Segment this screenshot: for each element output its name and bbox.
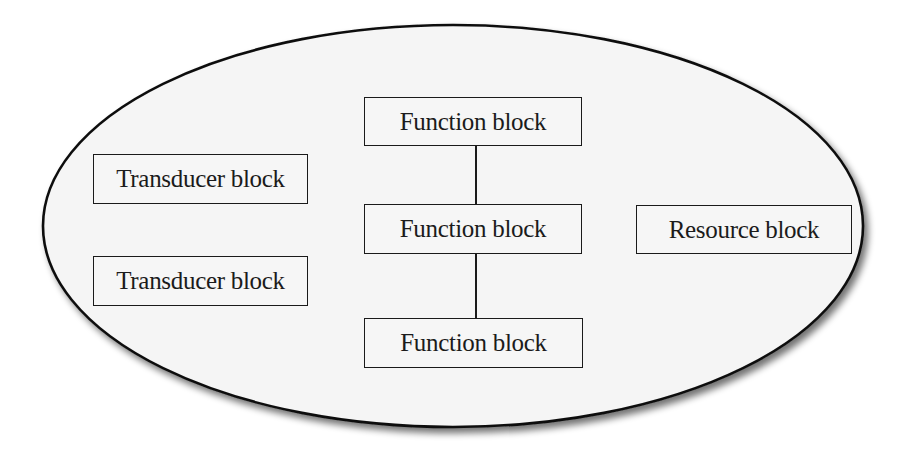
function-block-middle: Function block (364, 204, 582, 254)
resource-block: Resource block (636, 205, 852, 254)
device-block-diagram: Function block Function block Function b… (0, 0, 911, 453)
connector-line-top (475, 145, 477, 205)
connector-line-bottom (475, 253, 477, 318)
function-block-top: Function block (364, 97, 582, 146)
transducer-block-bottom-label: Transducer block (116, 267, 285, 295)
function-block-bottom-label: Function block (400, 329, 546, 357)
function-block-top-label: Function block (400, 108, 546, 136)
function-block-middle-label: Function block (400, 215, 546, 243)
resource-block-label: Resource block (669, 216, 820, 244)
transducer-block-bottom: Transducer block (93, 256, 308, 306)
transducer-block-top: Transducer block (93, 154, 308, 204)
function-block-bottom: Function block (364, 318, 583, 368)
transducer-block-top-label: Transducer block (116, 165, 285, 193)
